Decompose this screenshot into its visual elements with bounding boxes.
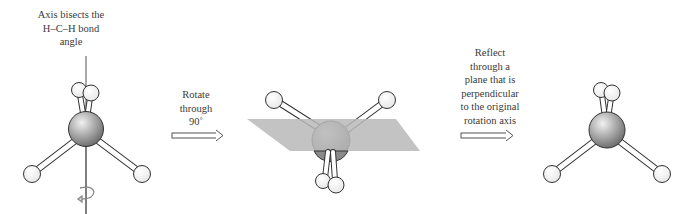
- double-line-right-arrow-icon: [461, 130, 513, 141]
- hydrogen-atom: [544, 166, 561, 183]
- bond: [553, 137, 600, 173]
- molecule-rotated: [247, 92, 420, 194]
- hydrogen-atom: [604, 85, 620, 101]
- hydrogen-atom: [654, 166, 671, 183]
- carbon-atom: [589, 112, 625, 148]
- molecule-original: [24, 56, 151, 214]
- bond: [93, 137, 141, 173]
- symmetry-diagram: [0, 0, 680, 214]
- bond: [333, 152, 335, 180]
- molecule-reflected: [544, 83, 671, 183]
- hydrogen-atom: [134, 166, 151, 183]
- double-line-right-arrow-icon: [172, 130, 223, 141]
- carbon-atom: [69, 112, 104, 147]
- bond: [614, 137, 661, 173]
- hydrogen-atom: [266, 92, 283, 109]
- mirror-plane: [247, 119, 420, 151]
- bond: [33, 137, 80, 173]
- hydrogen-atom: [83, 85, 99, 101]
- hydrogen-atom: [379, 92, 396, 109]
- hydrogen-atom: [328, 177, 344, 193]
- hydrogen-atom: [24, 166, 41, 183]
